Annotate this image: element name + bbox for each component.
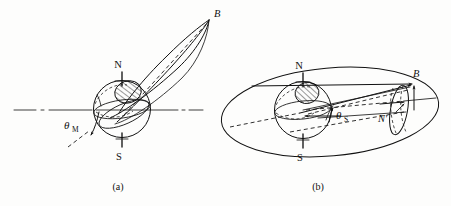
panel-a-field-point-label: B <box>214 8 221 19</box>
panel-a-caption: (a) <box>112 181 123 193</box>
panel-a: N S B θ M (a) <box>14 8 221 193</box>
panel-b-north-pole-label: N <box>295 60 303 71</box>
panel-b-field-point-label: B <box>413 68 420 79</box>
figure-canvas: N S B θ M (a) <box>0 0 451 206</box>
panel-a-angle-subscript: M <box>72 125 79 134</box>
panel-a-orbit-centerline <box>124 21 209 115</box>
panel-a-angle-theta: θ <box>64 119 70 131</box>
panel-a-angle-label: θ M <box>64 119 79 134</box>
panel-b-caption: (b) <box>312 181 324 193</box>
panel-b-orbit-ellipse <box>218 59 443 166</box>
panel-b-angle-subscript: S <box>344 115 348 124</box>
panel-b-angle-theta: θ <box>336 109 342 121</box>
panel-b-inclined-axis <box>230 98 436 127</box>
panel-a-south-pole-label: S <box>116 151 122 162</box>
panel-b-secondary-point-label: N′ <box>377 113 388 124</box>
panel-a-polar-cap-hatched <box>112 77 144 106</box>
figure-root: N S B θ M (a) <box>0 0 451 206</box>
panel-b-south-pole-label: S <box>297 152 303 163</box>
panel-a-orbit-loop <box>110 20 209 124</box>
panel-a-north-pole-label: N <box>114 59 122 70</box>
panel-b: N S B N′ θ S (b) <box>218 59 443 193</box>
panel-a-tilt-angle-arc <box>91 95 101 135</box>
